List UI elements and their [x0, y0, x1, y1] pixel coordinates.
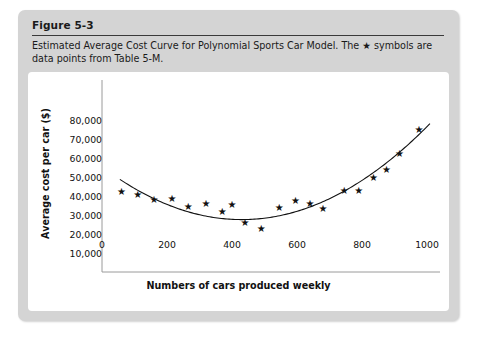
- figure-caption: Estimated Average Cost Curve for Polynom…: [32, 39, 446, 65]
- y-tick-label: 50,000: [54, 171, 102, 182]
- x-tick-label: 0: [99, 239, 105, 250]
- data-point-marker: ★: [257, 224, 266, 234]
- data-point-marker: ★: [167, 194, 176, 204]
- data-point-marker: ★: [340, 186, 349, 196]
- data-point-marker: ★: [241, 218, 250, 228]
- plot-card: 10,00020,00030,00040,00050,00060,00070,0…: [28, 72, 449, 311]
- x-tick-label: 1000: [415, 239, 439, 250]
- data-point-marker: ★: [354, 186, 363, 196]
- data-point-marker: ★: [202, 199, 211, 209]
- x-axis-title: Numbers of cars produced weekly: [28, 280, 449, 291]
- y-tick-label: 80,000: [54, 114, 102, 125]
- y-tick-label: 30,000: [54, 209, 102, 220]
- figure-title: Figure 5-3: [32, 19, 94, 31]
- data-point-marker: ★: [319, 204, 328, 214]
- x-tick-label: 400: [223, 239, 241, 250]
- data-point-marker: ★: [133, 190, 142, 200]
- x-tick-label: 800: [353, 239, 371, 250]
- y-tick-label: 70,000: [54, 133, 102, 144]
- y-axis-title: Average cost per car ($): [40, 99, 51, 249]
- data-point-marker: ★: [291, 196, 300, 206]
- x-tick-label: 600: [288, 239, 306, 250]
- data-point-marker: ★: [150, 195, 159, 205]
- y-tick-label: 60,000: [54, 152, 102, 163]
- y-axis-tick-labels: 10,00020,00030,00040,00050,00060,00070,0…: [52, 72, 102, 311]
- data-point-marker: ★: [414, 125, 423, 135]
- y-tick-label: 40,000: [54, 190, 102, 201]
- data-point-marker: ★: [275, 203, 284, 213]
- y-tick-label: 10,000: [54, 247, 102, 258]
- data-point-marker: ★: [228, 200, 237, 210]
- data-point-marker: ★: [117, 187, 126, 197]
- data-point-marker: ★: [184, 202, 193, 212]
- chart-plot-area: 10,00020,00030,00040,00050,00060,00070,0…: [28, 72, 449, 311]
- data-point-marker: ★: [306, 199, 315, 209]
- data-point-marker: ★: [218, 207, 227, 217]
- data-point-marker: ★: [369, 173, 378, 183]
- figure-card: Figure 5-3 Estimated Average Cost Curve …: [18, 10, 459, 321]
- data-point-marker: ★: [395, 149, 404, 159]
- title-divider: [32, 35, 444, 36]
- x-tick-label: 200: [158, 239, 176, 250]
- data-point-marker: ★: [382, 165, 391, 175]
- y-tick-label: 20,000: [54, 228, 102, 239]
